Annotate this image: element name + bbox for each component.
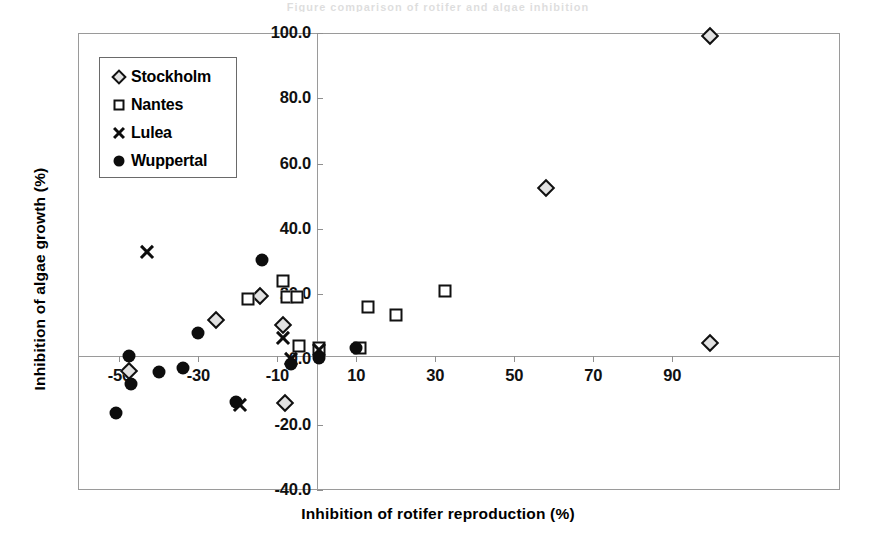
legend-item-wuppertal[interactable]: Wuppertal (100, 147, 236, 175)
y-axis-tick-label: 80.0 (231, 88, 311, 107)
data-point-wuppertal (312, 351, 325, 364)
x-axis-tick (356, 356, 357, 362)
data-point-wuppertal (350, 342, 363, 355)
x-axis-tick (119, 356, 120, 362)
data-point-nantes (389, 309, 402, 322)
data-point-lulea (139, 244, 155, 260)
x-axis-tick (514, 356, 515, 362)
square-marker-icon (109, 95, 131, 115)
x-axis-tick (198, 356, 199, 362)
legend: Stockholm Nantes Lulea Wuppertal (99, 57, 237, 178)
data-point-wuppertal (255, 253, 268, 266)
data-point-lulea (275, 330, 291, 346)
legend-item-label: Stockholm (131, 68, 211, 86)
y-axis-tick-label: 40.0 (231, 219, 311, 238)
x-axis-tick-label: 30 (395, 366, 475, 385)
x-axis-tick (593, 356, 594, 362)
x-axis-tick-label: -10 (237, 366, 317, 385)
legend-item-stockholm[interactable]: Stockholm (100, 63, 236, 91)
y-axis-tick (317, 33, 323, 34)
y-axis-zero-line (317, 33, 318, 490)
data-point-wuppertal (109, 407, 122, 420)
data-point-wuppertal (192, 327, 205, 340)
y-axis-title: Inhibition of algae growth (%) (31, 129, 49, 429)
data-point-nantes (241, 293, 254, 306)
x-axis-tick-label: 10 (316, 366, 396, 385)
y-axis-tick (317, 294, 323, 295)
data-point-nantes (277, 275, 290, 288)
x-axis-tick-label: 70 (553, 366, 633, 385)
x-axis-tick-label: 50 (474, 366, 554, 385)
x-axis-tick (435, 356, 436, 362)
legend-item-nantes[interactable]: Nantes (100, 91, 236, 119)
data-point-wuppertal (152, 366, 165, 379)
cross-marker-icon (109, 123, 131, 143)
data-point-nantes (291, 291, 304, 304)
x-axis-zero-line (78, 356, 840, 357)
y-axis-tick-label: 60.0 (231, 154, 311, 173)
data-point-wuppertal (285, 358, 298, 371)
legend-item-label: Lulea (131, 124, 172, 142)
data-point-nantes (439, 284, 452, 297)
x-axis-tick (672, 356, 673, 362)
y-axis-tick (317, 229, 323, 230)
data-point-wuppertal (229, 395, 242, 408)
legend-item-lulea[interactable]: Lulea (100, 119, 236, 147)
data-point-wuppertal (176, 361, 189, 374)
data-point-nantes (362, 301, 375, 314)
diamond-marker-icon (109, 67, 131, 87)
data-point-wuppertal (123, 350, 136, 363)
y-axis-tick (317, 490, 323, 491)
x-axis-tick (277, 356, 278, 362)
legend-item-label: Wuppertal (131, 152, 207, 170)
y-axis-tick-label: 100.0 (231, 23, 311, 42)
y-axis-tick (317, 425, 323, 426)
chart-page: Figure comparison of rotifer and algae i… (0, 0, 876, 543)
y-axis-tick (317, 164, 323, 165)
x-axis-tick-label: 90 (632, 366, 712, 385)
legend-item-label: Nantes (131, 96, 183, 114)
x-axis-tick-label: -50 (79, 366, 159, 385)
scan-artifact-text: Figure comparison of rotifer and algae i… (0, 0, 876, 12)
data-point-wuppertal (125, 377, 138, 390)
x-axis-tick-label: -30 (158, 366, 238, 385)
circle-marker-icon (109, 151, 131, 171)
y-axis-tick-label: -20.0 (231, 415, 311, 434)
y-axis-tick-label: -40.0 (231, 480, 311, 499)
x-axis-title: Inhibition of rotifer reproduction (%) (0, 505, 876, 523)
y-axis-tick (317, 98, 323, 99)
